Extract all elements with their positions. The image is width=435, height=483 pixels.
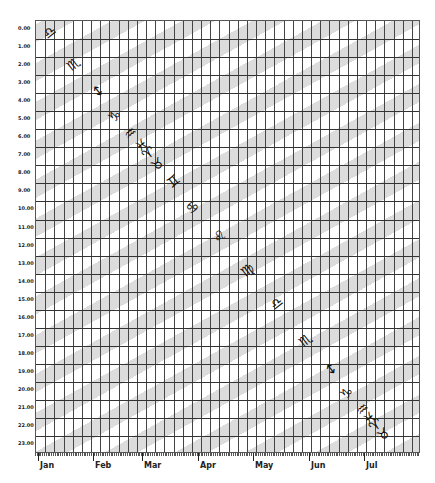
grid-row-line — [36, 436, 419, 437]
grid-column-line — [174, 21, 175, 452]
grid-row-line — [36, 129, 419, 130]
plot-area: ♎♏↕♑♒♓♈♉♊♋♌♍♎♏↕♑♒♓♈♉ — [35, 20, 420, 453]
grid-column-line — [256, 21, 257, 452]
x-month-tick — [253, 453, 254, 461]
grid-row-line — [36, 382, 419, 383]
y-tick-label: 13.00 — [18, 260, 34, 266]
y-tick-label: 9.00 — [18, 187, 34, 193]
grid-column-line — [229, 21, 230, 452]
y-tick-label: 7.00 — [18, 151, 34, 157]
grid-row-line — [36, 256, 419, 257]
grid-column-line — [82, 21, 83, 452]
x-minor-tick — [418, 453, 419, 456]
grid-column-line — [128, 21, 129, 452]
x-axis: JanFebMarAprMayJunJul — [35, 453, 420, 483]
y-tick-label: 23.00 — [18, 440, 34, 446]
grid-row-line — [36, 165, 419, 166]
grid-column-line — [109, 21, 110, 452]
grid-column-line — [45, 21, 46, 452]
grid-column-line — [274, 21, 275, 452]
grid-row-line — [36, 111, 419, 112]
grid-column-line — [54, 21, 55, 452]
grid-column-line — [293, 21, 294, 452]
x-month-label: Jan — [40, 461, 54, 470]
grid-column-line — [238, 21, 239, 452]
sagittarius-glyph-icon: ↕ — [322, 360, 340, 378]
grid-column-line — [192, 21, 193, 452]
grid-column-line — [366, 21, 367, 452]
virgo-glyph-icon: ♍ — [238, 261, 257, 280]
grid-row-line — [36, 147, 419, 148]
y-tick-label: 6.00 — [18, 133, 34, 139]
grid-row-line — [36, 310, 419, 311]
grid-row-line — [36, 39, 419, 40]
x-month-tick — [309, 453, 310, 461]
grid-column-line — [247, 21, 248, 452]
y-tick-label: 1.00 — [18, 43, 34, 49]
grid-row-line — [36, 201, 419, 202]
y-tick-label: 2.00 — [18, 61, 34, 67]
y-tick-label: 0.00 — [18, 25, 34, 31]
y-tick-label: 15.00 — [18, 296, 34, 302]
y-tick-label: 18.00 — [18, 350, 34, 356]
y-tick-label: 20.00 — [18, 386, 34, 392]
y-tick-label: 17.00 — [18, 332, 34, 338]
x-month-label: Feb — [95, 461, 111, 470]
grid-column-line — [302, 21, 303, 452]
grid-column-line — [394, 21, 395, 452]
grid-column-line — [357, 21, 358, 452]
grid-row-line — [36, 364, 419, 365]
grid-column-line — [412, 21, 413, 452]
grid-column-line — [183, 21, 184, 452]
x-month-tick — [142, 453, 143, 461]
x-month-tick — [364, 453, 365, 461]
grid-row-line — [36, 220, 419, 221]
y-tick-label: 16.00 — [18, 314, 34, 320]
y-tick-label: 11.00 — [18, 224, 34, 230]
y-tick-label: 12.00 — [18, 242, 34, 248]
y-tick-label: 3.00 — [18, 79, 34, 85]
zodiac-time-chart: 0.001.002.003.004.005.006.007.008.009.00… — [0, 0, 435, 483]
y-tick-label: 21.00 — [18, 404, 34, 410]
grid-column-line — [73, 21, 74, 452]
y-tick-label: 14.00 — [18, 278, 34, 284]
y-tick-label: 4.00 — [18, 97, 34, 103]
grid-column-line — [64, 21, 65, 452]
grid-row-line — [36, 292, 419, 293]
grid-column-line — [311, 21, 312, 452]
grid-column-line — [146, 21, 147, 452]
grid-column-line — [375, 21, 376, 452]
grid-row-line — [36, 75, 419, 76]
grid-column-line — [119, 21, 120, 452]
grid-row-line — [36, 346, 419, 347]
grid-column-line — [320, 21, 321, 452]
x-month-label: Jul — [366, 461, 377, 470]
x-month-tick — [38, 453, 39, 461]
x-month-label: Mar — [144, 461, 161, 470]
grid-column-line — [201, 21, 202, 452]
x-month-tick — [198, 453, 199, 461]
grid-column-line — [164, 21, 165, 452]
grid-row-line — [36, 274, 419, 275]
grid-column-line — [155, 21, 156, 452]
grid-column-line — [265, 21, 266, 452]
x-month-label: Jun — [311, 461, 325, 470]
grid-column-line — [284, 21, 285, 452]
y-tick-label: 22.00 — [18, 422, 34, 428]
y-tick-label: 5.00 — [18, 115, 34, 121]
grid-row-line — [36, 183, 419, 184]
grid-column-line — [403, 21, 404, 452]
grid-row-line — [36, 328, 419, 329]
y-tick-label: 10.00 — [18, 205, 34, 211]
grid-column-line — [329, 21, 330, 452]
x-month-tick — [93, 453, 94, 461]
taurus-glyph-icon: ♉ — [374, 425, 393, 444]
grid-column-line — [384, 21, 385, 452]
y-tick-label: 8.00 — [18, 169, 34, 175]
x-month-label: May — [255, 461, 273, 470]
x-month-label: Apr — [200, 461, 216, 470]
leo-glyph-icon: ♌ — [210, 227, 229, 246]
grid-row-line — [36, 57, 419, 58]
grid-column-line — [137, 21, 138, 452]
gemini-glyph-icon: ♊ — [164, 172, 183, 191]
